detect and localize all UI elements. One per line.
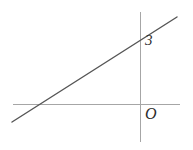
y-intercept-label: 3 [145,33,153,48]
origin-label: O [145,106,157,122]
graph-canvas [0,0,193,150]
coordinate-plane-figure: 3 O [0,0,193,150]
